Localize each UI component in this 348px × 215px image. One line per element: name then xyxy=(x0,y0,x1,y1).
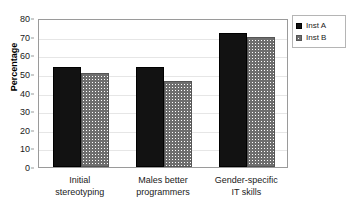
x-category-label: Males betterprogrammers xyxy=(121,174,204,198)
y-tick-mark xyxy=(31,130,34,131)
bars-layer xyxy=(39,20,287,167)
bar-group xyxy=(39,20,122,167)
y-tick-label: 40 xyxy=(20,89,30,99)
y-tick-label: 50 xyxy=(20,70,30,80)
legend-label: Inst B xyxy=(306,33,326,42)
x-axis-category-labels: InitialstereotypingMales betterprogramme… xyxy=(38,174,288,214)
y-tick-label: 80 xyxy=(20,14,30,24)
legend-item: Inst A xyxy=(296,20,342,31)
bar-group xyxy=(206,20,289,167)
x-category-label-line: stereotyping xyxy=(38,186,121,198)
y-tick-mark xyxy=(31,19,34,20)
bar-inst-b xyxy=(247,37,275,167)
bar-inst-b xyxy=(81,73,109,167)
y-tick-mark xyxy=(31,37,34,38)
y-tick-mark xyxy=(31,74,34,75)
y-tick-label: 0 xyxy=(25,163,30,173)
x-category-label-line: Gender-specific xyxy=(205,174,288,186)
bar-inst-a xyxy=(53,67,81,167)
y-tick-mark xyxy=(31,149,34,150)
x-category-label-line: Initial xyxy=(38,174,121,186)
y-tick-mark xyxy=(31,56,34,57)
bar-inst-a xyxy=(136,67,164,167)
legend-swatch-icon xyxy=(296,23,302,29)
y-tick-label: 10 xyxy=(20,144,30,154)
y-tick-label: 30 xyxy=(20,107,30,117)
x-category-label: Initialstereotyping xyxy=(38,174,121,198)
y-tick-mark xyxy=(31,168,34,169)
bar-chart: Percentage 01020304050607080 Initialster… xyxy=(0,0,348,215)
y-tick-label: 70 xyxy=(20,33,30,43)
y-tick-label: 60 xyxy=(20,51,30,61)
legend-label: Inst A xyxy=(306,21,326,30)
plot-area xyxy=(38,19,288,168)
legend-item: Inst B xyxy=(296,32,342,43)
y-tick-mark xyxy=(31,93,34,94)
x-category-label-line: Males better xyxy=(121,174,204,186)
x-category-label: Gender-specificIT skills xyxy=(205,174,288,198)
legend-swatch-icon xyxy=(296,35,302,41)
y-tick-mark xyxy=(31,112,34,113)
y-tick-label: 20 xyxy=(20,126,30,136)
y-axis-tick-labels: 01020304050607080 xyxy=(0,19,34,168)
bar-group xyxy=(122,20,205,167)
x-category-label-line: programmers xyxy=(121,186,204,198)
bar-inst-a xyxy=(219,33,247,167)
x-category-label-line: IT skills xyxy=(205,186,288,198)
legend: Inst AInst B xyxy=(292,15,346,48)
bar-inst-b xyxy=(164,81,192,167)
